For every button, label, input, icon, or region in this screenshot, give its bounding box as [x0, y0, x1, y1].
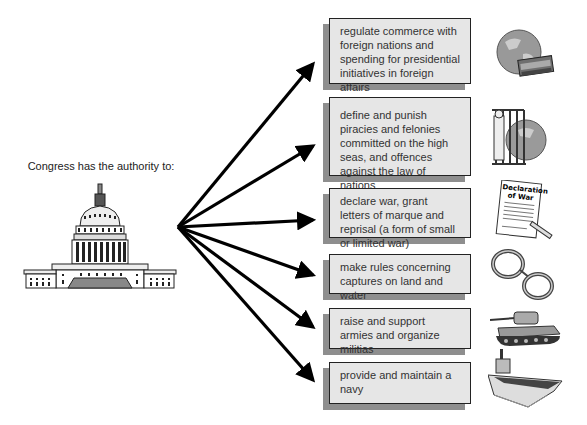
power-box-piracies: define and punish piracies and felonies … — [329, 97, 471, 176]
power-text: regulate commerce with foreign nations a… — [340, 25, 460, 93]
globe-money-icon — [495, 28, 555, 86]
power-box-navy: provide and maintain a navy — [329, 362, 471, 404]
handcuffs-icon — [490, 248, 556, 304]
power-box-declare-war: declare war, grant letters of marque and… — [329, 188, 471, 238]
tank-icon — [490, 306, 562, 348]
arrow-2 — [178, 146, 313, 227]
arrow-5 — [178, 227, 313, 327]
power-box-commerce: regulate commerce with foreign nations a… — [329, 18, 471, 84]
power-box-armies: raise and support armies and organize mi… — [329, 308, 471, 349]
power-text: provide and maintain a navy — [340, 369, 451, 395]
arrow-3 — [178, 220, 313, 227]
power-box-captures: make rules concerning captures on land a… — [329, 254, 471, 294]
jail-globe-icon — [490, 106, 548, 168]
arrow-1 — [178, 64, 313, 227]
aircraft-carrier-icon — [488, 345, 568, 417]
declaration-of-war-document-icon: Declaration of War — [495, 180, 545, 238]
